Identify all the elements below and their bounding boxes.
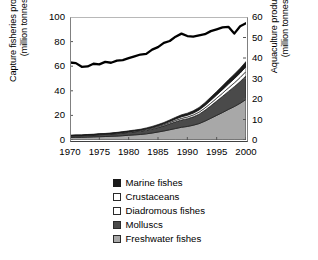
- right-tick-label: 10: [252, 115, 276, 125]
- legend-item-label: Crustaceans: [126, 192, 180, 202]
- legend: Marine fishesCrustaceansDiadromous fishe…: [113, 176, 263, 246]
- right-tick-label: 30: [252, 74, 276, 84]
- legend-swatch-icon: [113, 193, 121, 201]
- legend-item-label: Diadromous fishes: [126, 206, 205, 216]
- capture-fisheries-line: [70, 23, 246, 67]
- x-tick-label: 2000: [231, 147, 261, 157]
- x-tick-label: 1970: [55, 147, 85, 157]
- legend-item: Crustaceans: [113, 190, 263, 204]
- plot-area: [70, 17, 246, 140]
- right-tick-label: 40: [252, 53, 276, 63]
- x-tick-label: 1980: [114, 147, 144, 157]
- left-tick-label: 0: [41, 135, 65, 145]
- legend-swatch-icon: [113, 179, 121, 187]
- left-tick-label: 100: [41, 12, 65, 22]
- left-tick-label: 20: [41, 110, 65, 120]
- left-tick-label: 60: [41, 61, 65, 71]
- left-axis-title: Capture fisheries production (million to…: [8, 0, 28, 96]
- legend-swatch-icon: [113, 235, 121, 243]
- legend-item-label: Molluscs: [126, 220, 163, 230]
- legend-item: Diadromous fishes: [113, 204, 263, 218]
- legend-item: Marine fishes: [113, 176, 263, 190]
- legend-item: Freshwater fishes: [113, 232, 263, 246]
- x-tick-label: 1975: [84, 147, 114, 157]
- right-tick-label: 60: [252, 12, 276, 22]
- x-tick-label: 1995: [202, 147, 232, 157]
- right-tick-label: 0: [252, 135, 276, 145]
- legend-item: Molluscs: [113, 218, 263, 232]
- right-tick-label: 50: [252, 33, 276, 43]
- right-tick-label: 20: [252, 94, 276, 104]
- left-tick-label: 40: [41, 86, 65, 96]
- legend-swatch-icon: [113, 221, 121, 229]
- x-tick-label: 1990: [172, 147, 202, 157]
- legend-item-label: Marine fishes: [126, 178, 183, 188]
- left-tick-label: 80: [41, 37, 65, 47]
- x-tick-label: 1985: [143, 147, 173, 157]
- legend-swatch-icon: [113, 207, 121, 215]
- chart-figure: Capture fisheries production (million to…: [0, 0, 318, 260]
- legend-item-label: Freshwater fishes: [126, 234, 202, 244]
- plot-svg: [70, 17, 246, 140]
